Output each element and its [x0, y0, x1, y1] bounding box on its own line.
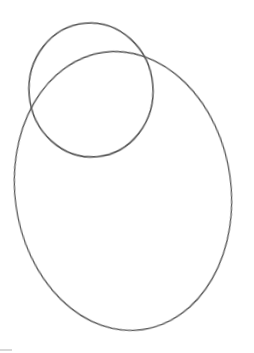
- pencil-sketch: [0, 0, 254, 353]
- large-oval-shape: [0, 37, 249, 344]
- small-circle-shape: [23, 18, 158, 162]
- paper-edge-mark: [0, 349, 12, 351]
